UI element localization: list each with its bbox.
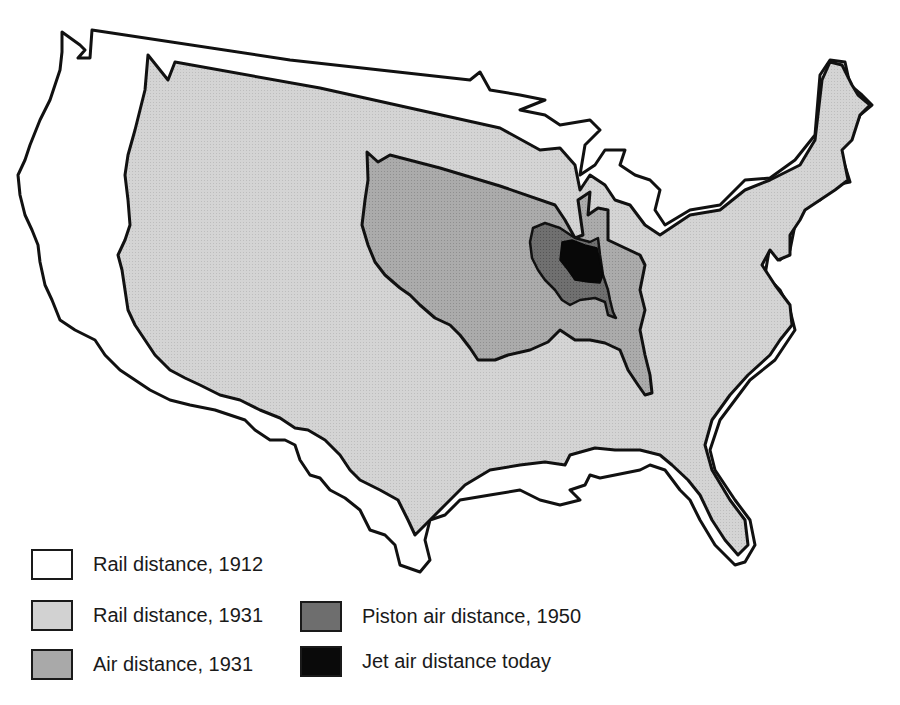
- legend-item-rail-1912: Rail distance, 1912: [31, 549, 263, 580]
- legend-swatch-jet-today: [300, 646, 342, 677]
- legend-swatch-piston-1950: [300, 601, 342, 632]
- legend-swatch-rail-1931: [31, 600, 73, 631]
- legend-label-rail-1912: Rail distance, 1912: [93, 553, 263, 576]
- legend-label-rail-1931: Rail distance, 1931: [93, 604, 263, 627]
- legend-label-air-1931: Air distance, 1931: [93, 653, 253, 676]
- legend-item-air-1931: Air distance, 1931: [31, 649, 253, 680]
- legend-item-piston-1950: Piston air distance, 1950: [300, 601, 581, 632]
- legend-item-jet-today: Jet air distance today: [300, 646, 551, 677]
- legend-label-jet-today: Jet air distance today: [362, 650, 551, 673]
- legend-label-piston-1950: Piston air distance, 1950: [362, 605, 581, 628]
- legend-item-rail-1931: Rail distance, 1931: [31, 600, 263, 631]
- legend-swatch-air-1931: [31, 649, 73, 680]
- legend-swatch-rail-1912: [31, 549, 73, 580]
